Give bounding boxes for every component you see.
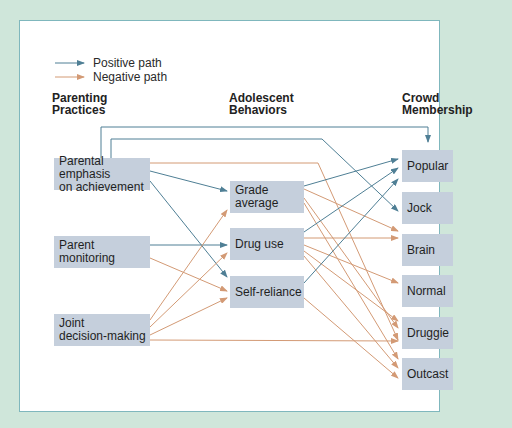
node-label: on achievement — [59, 181, 150, 194]
node-jock: Jock — [402, 192, 453, 224]
node-grade-average: Grade average — [230, 181, 304, 213]
node-label: average — [235, 197, 278, 210]
node-drug-use: Drug use — [230, 228, 304, 260]
node-label: Self-reliance — [235, 286, 302, 299]
legend-negative-label: Negative path — [93, 70, 167, 84]
node-joint-decision-making: Joint decision-making — [54, 314, 150, 346]
node-parental-emphasis: Parental emphasis on achievement — [54, 158, 150, 190]
node-parent-monitoring: Parent monitoring — [54, 236, 150, 268]
node-label: Parental emphasis — [59, 155, 150, 181]
node-label: decision-making — [59, 330, 146, 343]
column-header-adolescent: Adolescent Behaviors — [229, 92, 294, 116]
node-label: Outcast — [407, 368, 448, 381]
column-header-parenting: Parenting Practices — [52, 92, 107, 116]
node-popular: Popular — [402, 150, 453, 182]
node-label: Drug use — [235, 238, 284, 251]
legend-positive-label: Positive path — [93, 56, 162, 70]
node-druggie: Druggie — [402, 317, 453, 349]
column-header-crowd: Crowd Membership — [402, 92, 473, 116]
column-header-line: Membership — [402, 104, 473, 116]
node-outcast: Outcast — [402, 358, 453, 390]
node-normal: Normal — [402, 275, 453, 307]
node-label: Parent monitoring — [59, 239, 150, 265]
node-label: Normal — [407, 285, 446, 298]
node-label: Druggie — [407, 327, 449, 340]
node-label: Popular — [407, 160, 448, 173]
column-header-line: Behaviors — [229, 104, 294, 116]
node-self-reliance: Self-reliance — [230, 276, 304, 308]
node-label: Jock — [407, 202, 432, 215]
column-header-line: Practices — [52, 104, 107, 116]
node-brain: Brain — [402, 234, 453, 266]
node-label: Brain — [407, 244, 435, 257]
